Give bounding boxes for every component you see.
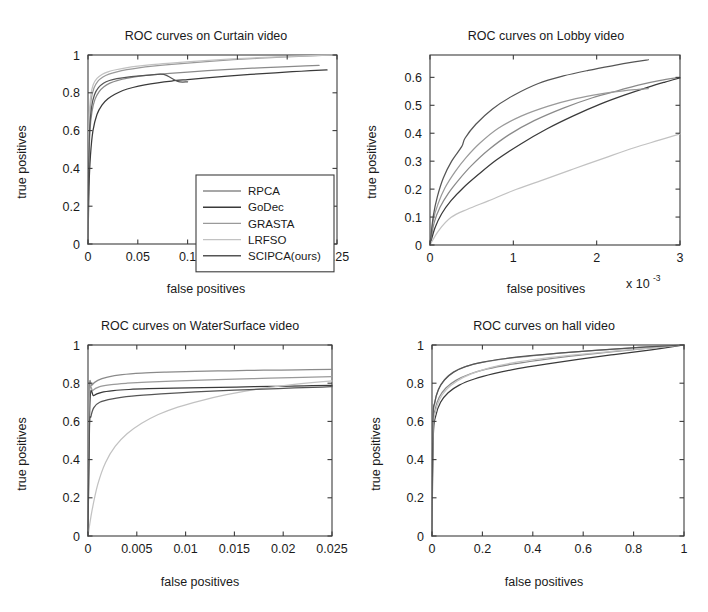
plot-area-hall: 00.20.40.60.8100.20.40.60.81 [407, 339, 688, 557]
curve-lobby-scipcaours [430, 60, 648, 245]
plot-area-watersurface: 00.0050.010.0150.020.02500.20.40.60.81 [63, 339, 348, 557]
curve-lobby-grasta [430, 89, 648, 245]
legend-label-lrfso: LRFSO [248, 234, 286, 246]
xticklabel-watersurface-3: 0.015 [219, 542, 250, 556]
yticklabel-lobby-5: 0.5 [405, 99, 422, 113]
panel-hall: ROC curves on hall video 00.20.40.60.810… [354, 304, 708, 604]
xticklabel-watersurface-5: 0.025 [316, 542, 347, 556]
axes-frame-watersurface [88, 345, 332, 536]
xticklabel-hall-5: 1 [681, 542, 688, 556]
yticklabel-lobby-6: 0.6 [405, 71, 422, 85]
axes-frame-lobby [430, 55, 680, 245]
x-exponent-power-lobby: -3 [653, 273, 661, 283]
yticklabel-watersurface-2: 0.4 [63, 453, 80, 467]
yticklabel-watersurface-0: 0 [73, 530, 80, 544]
ylabel-watersurface: true positives [15, 417, 29, 491]
yticklabel-hall-4: 0.8 [407, 377, 424, 391]
yticklabel-hall-2: 0.4 [407, 453, 424, 467]
yticklabel-lobby-3: 0.3 [405, 155, 422, 169]
xticklabel-hall-2: 0.4 [524, 542, 541, 556]
xticklabel-lobby-1: 1 [510, 251, 517, 265]
yticklabel-lobby-2: 0.2 [405, 183, 422, 197]
xticklabel-hall-0: 0 [429, 542, 436, 556]
curve-lobby-godec [430, 78, 680, 245]
curve-watersurface-grasta [88, 377, 332, 536]
yticklabel-watersurface-5: 1 [73, 339, 80, 353]
roc-figure: ROC curves on Curtain video 00.050.10.15… [0, 0, 708, 612]
yticklabel-curtain-4: 0.8 [63, 86, 80, 100]
yticklabel-curtain-2: 0.4 [63, 162, 80, 176]
curve-hall-rpca [432, 345, 684, 536]
curve-lobby-rpca [430, 77, 680, 245]
legend-label-grasta: GRASTA [248, 218, 295, 230]
xticklabel-hall-3: 0.6 [575, 542, 592, 556]
yticklabel-hall-5: 1 [417, 339, 424, 353]
yticklabel-curtain-0: 0 [73, 238, 80, 252]
xticklabel-watersurface-1: 0.005 [121, 542, 152, 556]
xlabel-watersurface: false positives [161, 575, 240, 589]
xticklabel-lobby-2: 2 [593, 251, 600, 265]
plot-title-watersurface: ROC curves on WaterSurface video [101, 319, 299, 333]
yticklabel-hall-1: 0.2 [407, 491, 424, 505]
curve-watersurface-scipcaours [88, 387, 332, 536]
xticklabel-watersurface-2: 0.01 [173, 542, 197, 556]
yticklabel-lobby-1: 0.1 [405, 211, 422, 225]
curve-watersurface-lrfso [88, 381, 332, 536]
yticklabel-watersurface-4: 0.8 [63, 377, 80, 391]
plot-hall: ROC curves on hall video 00.20.40.60.810… [354, 304, 708, 604]
ylabel-hall: true positives [369, 417, 383, 491]
plot-lobby: ROC curves on Lobby video 012300.10.20.3… [354, 14, 708, 306]
yticklabel-curtain-1: 0.2 [63, 200, 80, 214]
legend-label-godec: GoDec [248, 201, 284, 213]
xticklabel-watersurface-0: 0 [85, 542, 92, 556]
ylabel-lobby: true positives [365, 125, 379, 199]
curve-watersurface-godec [88, 385, 332, 536]
curve-watersurface-rpca [88, 369, 332, 536]
plot-title-curtain: ROC curves on Curtain video [125, 29, 288, 43]
yticklabel-curtain-3: 0.6 [63, 124, 80, 138]
curve-curtain-scipcaours [88, 74, 188, 244]
xlabel-lobby: false positives [507, 282, 586, 296]
xticklabel-curtain-2: 0.1 [179, 250, 196, 264]
ylabel-curtain: true positives [15, 125, 29, 199]
plot-watersurface: ROC curves on WaterSurface video 00.0050… [0, 304, 354, 604]
yticklabel-watersurface-1: 0.2 [63, 491, 80, 505]
xticklabel-lobby-3: 3 [677, 251, 684, 265]
panel-watersurface: ROC curves on WaterSurface video 00.0050… [0, 304, 354, 604]
yticklabel-hall-0: 0 [417, 530, 424, 544]
xticklabel-hall-1: 0.2 [474, 542, 491, 556]
plot-title-hall: ROC curves on hall video [473, 319, 615, 333]
plot-curtain: ROC curves on Curtain video 00.050.10.15… [0, 14, 354, 306]
yticklabel-watersurface-3: 0.6 [63, 415, 80, 429]
xticklabel-watersurface-4: 0.02 [271, 542, 295, 556]
xticklabel-curtain-1: 0.05 [126, 250, 150, 264]
plot-area-lobby: 012300.10.20.30.40.50.6 [405, 55, 684, 265]
legend-label-rpca: RPCA [248, 185, 280, 197]
yticklabel-curtain-5: 1 [73, 49, 80, 63]
x-exponent-base-lobby: x 10 [626, 277, 650, 291]
xticklabel-lobby-0: 0 [427, 251, 434, 265]
plot-title-lobby: ROC curves on Lobby video [468, 29, 624, 43]
xlabel-hall: false positives [505, 575, 584, 589]
legend-label-scipcaours: SCIPCA(ours) [248, 250, 321, 262]
yticklabel-lobby-4: 0.4 [405, 127, 422, 141]
legend-curtain: RPCAGoDecGRASTALRFSOSCIPCA(ours) [196, 175, 334, 272]
xticklabel-hall-4: 0.8 [625, 542, 642, 556]
yticklabel-hall-3: 0.6 [407, 415, 424, 429]
yticklabel-lobby-0: 0 [415, 239, 422, 253]
xticklabel-curtain-0: 0 [85, 250, 92, 264]
panel-lobby: ROC curves on Lobby video 012300.10.20.3… [354, 14, 708, 306]
panel-curtain: ROC curves on Curtain video 00.050.10.15… [0, 14, 354, 306]
xlabel-curtain: false positives [167, 282, 246, 296]
curve-lobby-lrfso [430, 134, 680, 245]
